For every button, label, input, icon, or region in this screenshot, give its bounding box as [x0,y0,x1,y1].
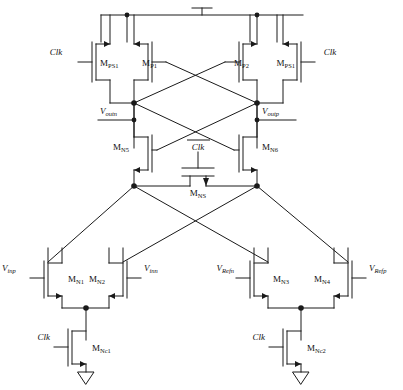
transistor-mn5 [134,103,157,186]
junction-dots [83,13,304,311]
label-mn1: MN1 [68,274,84,285]
transistor-mn1 [30,248,62,308]
label-mn2: MN2 [89,274,105,285]
label-voutn: Voutn [100,106,117,117]
pmos-source-rails [101,15,277,42]
transistor-mn3 [236,248,268,308]
schematic-canvas: Clk Clk MPS1 MP1 MP2 MPS1 Voutn Voutp MN… [0,0,403,390]
label-clk-bar-mid: Clk [187,140,210,152]
transistor-mn6 [234,103,257,186]
transistor-mnc2 [269,329,301,372]
circuit-schematic: Clk Clk MPS1 MP1 MP2 MPS1 Voutn Voutp MN… [0,0,403,390]
transistor-mnc1 [54,329,86,372]
label-voutp: Voutp [262,106,280,117]
label-vrefn: VRefn [217,263,234,274]
ground-symbol-left [78,372,94,384]
label-mps1-left: MPS1 [100,58,119,69]
label-mp1: MP1 [142,58,157,69]
vdd-rail [101,8,303,15]
label-clk-top-left: Clk [50,47,64,57]
label-vinp: Vinp [2,263,17,274]
label-clk-top-right: Clk [324,47,338,57]
label-mp2: MP2 [234,58,249,69]
label-mn5: MN5 [113,142,129,153]
label-mn4: MN4 [314,274,331,285]
label-mns: MNS [190,188,207,199]
lower-tail-wires [62,308,334,340]
ground-symbol-right [293,372,309,384]
label-clk-bar-text: Clk [192,142,206,152]
label-mn6: MN6 [262,142,279,153]
label-clk-bottom-right: Clk [253,332,267,342]
transistor-mps1-right [283,15,315,103]
label-mnc2: MNc2 [307,343,326,354]
label-mn3: MN3 [273,274,289,285]
label-mnc1: MNc1 [92,343,111,354]
transistor-mn2 [109,248,141,308]
label-clk-bottom-left: Clk [38,332,52,342]
label-vinn: Vinn [144,263,158,274]
label-vrefp: VRefp [369,263,387,274]
transistor-mn4 [334,248,366,308]
label-mps1-right: MPS1 [277,58,296,69]
